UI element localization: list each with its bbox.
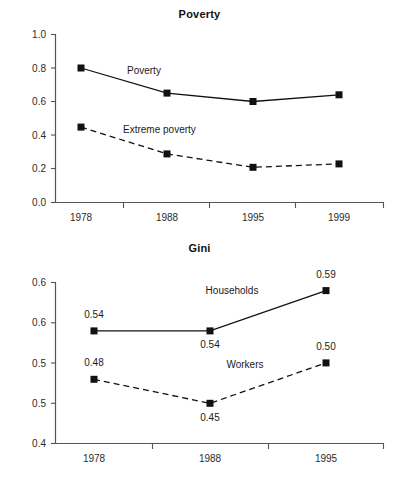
poverty-ytick-label-6: 0.0 xyxy=(32,197,46,208)
poverty-xtick-label-1995: 1995 xyxy=(242,212,265,223)
poverty-ytick-label-3: 0.6 xyxy=(32,96,46,107)
households-series-annotation: Households xyxy=(206,285,259,296)
poverty-xtick-label-1978: 1978 xyxy=(70,212,93,223)
poverty-plot-svg: 1.0 0.8 0.6 0.4 0.2 0.0 1978 1988 1995 1… xyxy=(0,0,399,238)
gini-ytick-label-2: 0.6 xyxy=(32,317,46,328)
poverty-series-line xyxy=(81,68,339,102)
gini-ytick-label-4: 0.5 xyxy=(32,398,46,409)
gini-xtick-label-1978: 1978 xyxy=(83,453,106,464)
gini-plot-svg: 0.6 0.6 0.5 0.5 0.4 1978 1988 1995 0.54 xyxy=(0,238,399,478)
gini-y-ticks xyxy=(51,283,56,444)
gini-xtick-label-1988: 1988 xyxy=(199,453,222,464)
gini-x-ticks xyxy=(153,444,384,450)
poverty-ytick-label-1: 1.0 xyxy=(32,29,46,40)
households-series-line xyxy=(94,291,326,331)
poverty-x-ticks xyxy=(124,203,384,209)
poverty-chart-panel: Poverty 1.0 0.8 0.6 0.4 0.2 0.0 xyxy=(0,0,399,238)
workers-value-label-1988: 0.45 xyxy=(200,412,220,423)
gini-xtick-label-1995: 1995 xyxy=(315,453,338,464)
poverty-series-annotation: Poverty xyxy=(127,65,161,76)
poverty-xtick-label-1988: 1988 xyxy=(156,212,179,223)
gini-axes xyxy=(56,282,385,444)
extreme-poverty-series-line xyxy=(81,127,339,167)
poverty-series-markers xyxy=(78,65,343,106)
households-value-label-1988: 0.54 xyxy=(200,339,220,350)
poverty-xtick-label-1999: 1999 xyxy=(328,212,351,223)
poverty-axes xyxy=(56,34,385,203)
workers-series-annotation: Workers xyxy=(226,359,263,370)
households-value-label-1995: 0.59 xyxy=(316,269,336,280)
gini-chart-panel: Gini 0.6 0.6 0.5 0.5 0.4 xyxy=(0,238,399,478)
workers-series-markers xyxy=(91,359,330,406)
poverty-y-ticks xyxy=(51,35,56,203)
households-value-label-1978: 0.54 xyxy=(84,309,104,320)
poverty-ytick-label-2: 0.8 xyxy=(32,63,46,74)
workers-value-label-1995: 0.50 xyxy=(316,341,336,352)
workers-series-line xyxy=(94,363,326,403)
extreme-poverty-series-markers xyxy=(78,124,343,171)
workers-value-label-1978: 0.48 xyxy=(84,357,104,368)
gini-ytick-label-3: 0.5 xyxy=(32,358,46,369)
poverty-ytick-label-5: 0.2 xyxy=(32,163,46,174)
gini-ytick-label-5: 0.4 xyxy=(32,438,46,449)
poverty-ytick-label-4: 0.4 xyxy=(32,130,46,141)
two-panel-line-chart-figure: Poverty 1.0 0.8 0.6 0.4 0.2 0.0 xyxy=(0,0,399,478)
gini-ytick-label-1: 0.6 xyxy=(32,277,46,288)
extreme-poverty-series-annotation: Extreme poverty xyxy=(123,124,196,135)
